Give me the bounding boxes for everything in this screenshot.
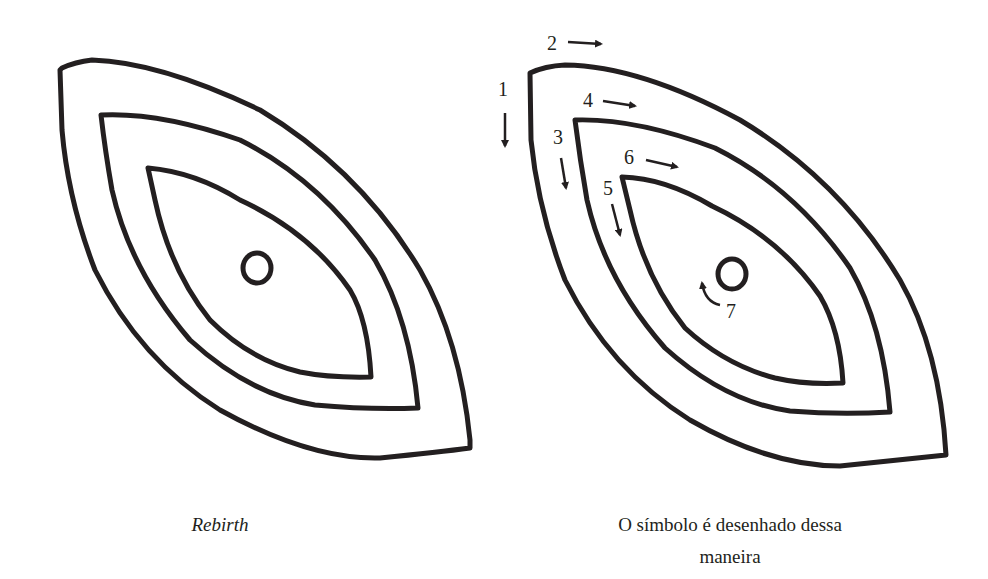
- arrow-step-6-icon: [646, 160, 677, 167]
- step-label-2: 2: [547, 32, 557, 55]
- arrow-step-7-curved-icon: [702, 283, 720, 305]
- drawing-order-caption-line2: maneira: [550, 546, 910, 568]
- inner-leaf-outline-steps: [622, 177, 843, 383]
- drawing-order-caption-line1: O símbolo é desenhado dessa: [550, 514, 910, 536]
- drawing-order-symbol: 1 2 3 4 5 6 7 O símbolo é desenhado dess…: [0, 0, 988, 579]
- arrow-step-5-icon: [612, 204, 620, 235]
- step-label-1: 1: [498, 78, 508, 101]
- arrow-step-2-icon: [568, 42, 601, 44]
- center-circle-steps: [718, 259, 746, 289]
- step-label-7: 7: [726, 300, 736, 323]
- step-label-6: 6: [624, 146, 634, 169]
- step-label-3: 3: [553, 126, 563, 149]
- step-label-5: 5: [603, 177, 613, 200]
- arrow-step-4-icon: [603, 101, 635, 106]
- drawing-order-symbol-drawing: [0, 0, 988, 500]
- step-label-4: 4: [583, 89, 593, 112]
- outer-leaf-outline-steps: [530, 65, 946, 466]
- arrow-step-3-icon: [561, 158, 566, 188]
